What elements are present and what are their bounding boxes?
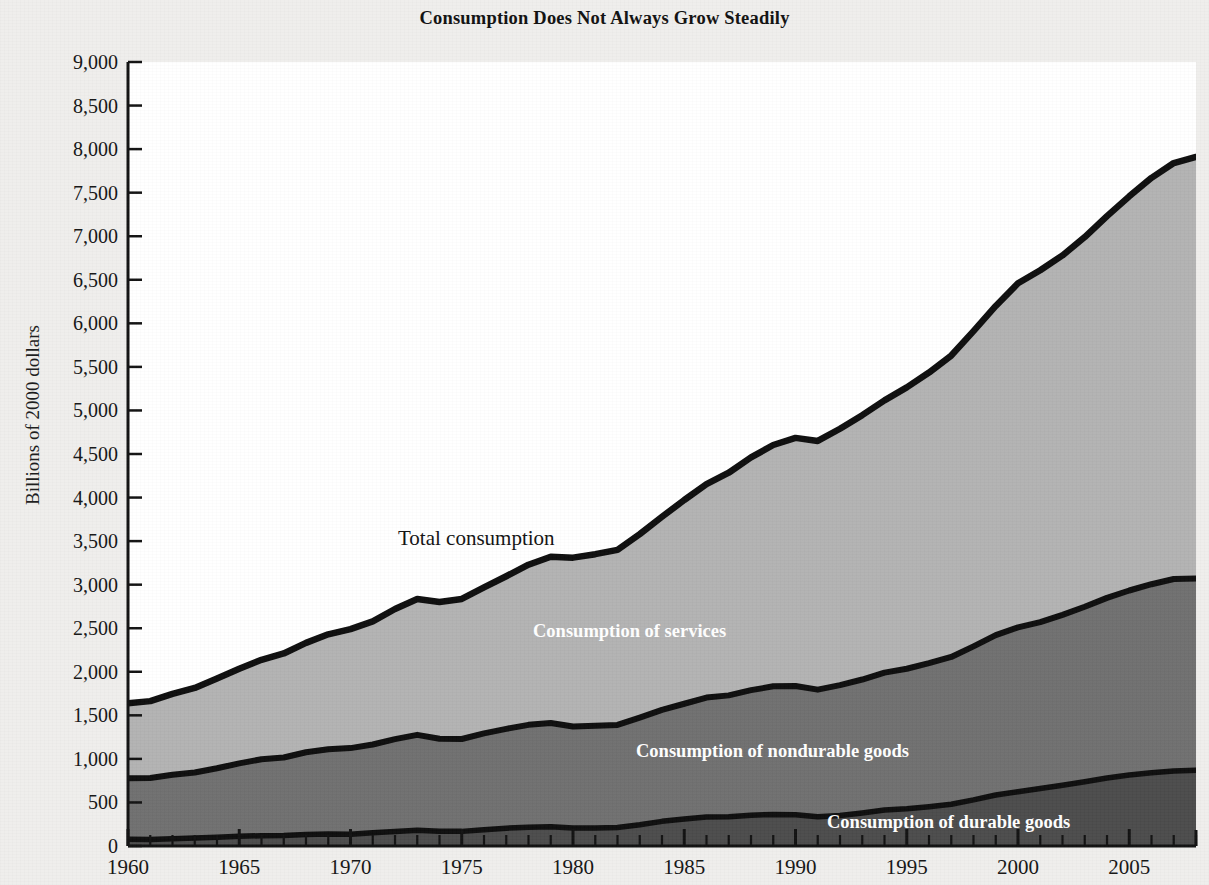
y-axis-tick-label: 6,000	[73, 312, 118, 334]
x-axis-tick-label: 1965	[218, 855, 260, 879]
y-axis-tick-label: 4,000	[73, 487, 118, 509]
x-axis-tick-label: 1970	[330, 855, 372, 879]
x-axis-tick-label: 2000	[997, 855, 1039, 879]
x-axis-tick-label: 2005	[1108, 855, 1150, 879]
y-axis-tick-label: 3,000	[73, 574, 118, 596]
annotation-consumption-of-durable-goods: Consumption of durable goods	[827, 812, 1070, 832]
y-axis-tick-label: 8,000	[73, 138, 118, 160]
y-axis-tick-label: 1,000	[73, 748, 118, 770]
chart-page: Consumption Does Not Always Grow Steadil…	[0, 0, 1209, 885]
y-axis-title: Billions of 2000 dollars	[22, 285, 44, 545]
y-axis-tick-label: 500	[88, 791, 118, 813]
y-axis-tick-labels: 05001,0001,5002,0002,5003,0003,5004,0004…	[73, 51, 118, 857]
y-axis-tick-label: 7,500	[73, 182, 118, 204]
y-axis-tick-label: 3,500	[73, 530, 118, 552]
x-axis-tick-label: 1995	[886, 855, 928, 879]
y-axis-tick-label: 2,000	[73, 661, 118, 683]
x-axis-tick-label: 1975	[441, 855, 483, 879]
y-axis-tick-label: 5,000	[73, 399, 118, 421]
y-axis-tick-label: 5,500	[73, 356, 118, 378]
y-axis-tick-label: 8,500	[73, 95, 118, 117]
y-axis-tick-label: 2,500	[73, 617, 118, 639]
x-axis-tick-label: 1960	[107, 855, 149, 879]
x-axis-tick-label: 1990	[775, 855, 817, 879]
y-axis-tick-label: 6,500	[73, 269, 118, 291]
y-axis-tick-label: 7,000	[73, 225, 118, 247]
x-axis-tick-labels: 1960196519701975198019851990199520002005	[107, 855, 1150, 879]
annotation-consumption-of-services: Consumption of services	[533, 621, 726, 641]
annotation-consumption-of-nondurable-goods: Consumption of nondurable goods	[636, 741, 909, 761]
y-axis-tick-label: 0	[108, 835, 118, 857]
y-axis-tick-label: 4,500	[73, 443, 118, 465]
consumption-area-chart: 05001,0001,5002,0002,5003,0003,5004,0004…	[0, 0, 1209, 885]
y-axis-tick-label: 9,000	[73, 51, 118, 73]
annotation-total-consumption: Total consumption	[398, 526, 555, 550]
x-axis-tick-label: 1980	[552, 855, 594, 879]
page-title: Consumption Does Not Always Grow Steadil…	[0, 8, 1209, 29]
y-axis-tick-label: 1,500	[73, 704, 118, 726]
x-axis-tick-label: 1985	[663, 855, 705, 879]
